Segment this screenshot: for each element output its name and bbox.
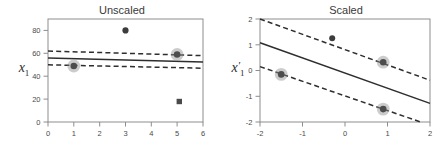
- x-tick-label: -2: [257, 129, 264, 138]
- y-axis-ticks-scaled: -2 -1 0 1 2: [246, 15, 260, 127]
- panel-title-scaled: Scaled: [329, 4, 363, 16]
- y-tick-label: 1: [248, 41, 252, 50]
- support-vector-marker: [275, 68, 288, 81]
- y-axis-label-unscaled: x1: [18, 60, 30, 78]
- support-vector-marker: [377, 103, 390, 116]
- data-point-small-circle: [329, 35, 335, 41]
- y-tick-label: 0: [248, 66, 252, 75]
- y-tick-label: 40: [32, 72, 40, 81]
- x-tick-label: 1: [385, 129, 389, 138]
- support-vector-marker: [171, 48, 184, 61]
- panel-title-unscaled: Unscaled: [99, 4, 145, 16]
- y-axis-label-subscript: 1: [25, 68, 30, 78]
- support-vector-marker: [67, 60, 80, 73]
- x-tick-label: 3: [123, 129, 127, 138]
- support-vector-marker: [377, 56, 390, 69]
- figure-container: Unscaled x1: [0, 0, 443, 155]
- svg-text:x1: x1: [18, 60, 30, 78]
- y-tick-label: 80: [32, 26, 40, 35]
- data-point-square: [177, 99, 182, 104]
- svg-text:x′1: x′1: [230, 59, 244, 78]
- x-axis-ticks-unscaled: 0 1 2 3 4 5 6: [46, 122, 205, 138]
- x-tick-label: 0: [46, 129, 50, 138]
- y-tick-label: -1: [246, 92, 253, 101]
- x-tick-label: 6: [201, 129, 205, 138]
- y-axis-label-subscript: 1: [240, 68, 245, 78]
- x-tick-label: 4: [149, 129, 153, 138]
- x-tick-label: -1: [299, 129, 306, 138]
- chart-panel-scaled: Scaled x′1: [218, 0, 443, 155]
- plot-area-scaled: -2 -1 0 1 2 -2 -1 0 1 2: [246, 15, 432, 138]
- x-tick-label: 2: [98, 129, 102, 138]
- x-axis-ticks-scaled: -2 -1 0 1 2: [257, 122, 432, 138]
- x-tick-label: 5: [175, 129, 179, 138]
- y-axis-label-scaled: x′1: [230, 59, 244, 78]
- y-tick-label: 60: [32, 49, 40, 58]
- plot-area-unscaled: 0 1 2 3 4 5 6 0 20 40 60 80: [32, 19, 205, 138]
- y-axis-ticks-unscaled: 0 20 40 60 80: [32, 26, 48, 127]
- data-point-small-circle: [122, 27, 128, 33]
- y-tick-label: 2: [248, 15, 252, 24]
- x-tick-label: 2: [428, 129, 432, 138]
- x-tick-label: 0: [343, 129, 347, 138]
- x-tick-label: 1: [72, 129, 76, 138]
- chart-panel-unscaled: Unscaled x1: [0, 0, 218, 155]
- y-tick-label: -2: [246, 118, 253, 127]
- y-tick-label: 20: [32, 95, 40, 104]
- y-tick-label: 0: [36, 118, 40, 127]
